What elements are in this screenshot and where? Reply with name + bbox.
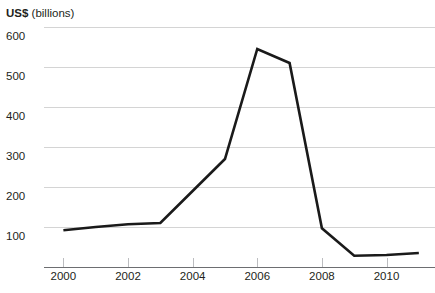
plot-area [44, 27, 435, 267]
x-tick-mark [257, 258, 258, 267]
y-axis-title-unit: US$ [6, 7, 28, 19]
y-tick-label: 200 [6, 190, 42, 202]
gridline-y [44, 107, 435, 108]
x-tick-label: 2010 [365, 270, 409, 283]
x-tick-mark [387, 258, 388, 267]
x-tick-label: 2008 [300, 270, 344, 283]
gridline-y [44, 227, 435, 228]
x-tick-label: 2002 [106, 270, 150, 283]
y-tick-label: 600 [6, 30, 42, 42]
y-tick-label: 300 [6, 150, 42, 162]
y-axis-title: US$ (billions) [6, 6, 74, 20]
line-chart-figure: US$ (billions) 1002003004005006002000200… [0, 0, 435, 293]
x-tick-label: 2004 [171, 270, 215, 283]
x-tick-label: 2000 [41, 270, 85, 283]
x-tick-mark [322, 258, 323, 267]
x-tick-mark [128, 258, 129, 267]
x-tick-mark [63, 258, 64, 267]
gridline-y [44, 187, 435, 188]
gridline-y [44, 67, 435, 68]
gridline-y [44, 27, 435, 28]
y-axis-title-qualifier: (billions) [28, 7, 74, 19]
y-tick-label: 400 [6, 110, 42, 122]
gridline-y [44, 147, 435, 148]
y-tick-label: 100 [6, 230, 42, 242]
x-tick-mark [193, 258, 194, 267]
y-tick-label: 500 [6, 70, 42, 82]
x-tick-label: 2006 [235, 270, 279, 283]
x-axis-baseline [44, 267, 435, 268]
